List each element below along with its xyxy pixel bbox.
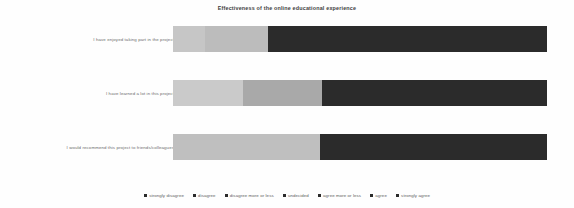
bar-segment-strongly-agree bbox=[320, 134, 547, 160]
legend-item[interactable]: undecided bbox=[283, 193, 309, 198]
bar-segment-agree-more-or-less bbox=[205, 26, 268, 52]
bar-row: I would recommend this project to friend… bbox=[0, 134, 574, 160]
legend-label: disagree more or less bbox=[230, 193, 274, 198]
legend-swatch-icon bbox=[144, 194, 147, 197]
category-label: I have learned a lot in this project bbox=[0, 91, 174, 96]
legend-item[interactable]: strongly disagree bbox=[144, 193, 184, 198]
legend-item[interactable]: agree more or less bbox=[318, 193, 361, 198]
legend-swatch-icon bbox=[193, 194, 196, 197]
legend-swatch-icon bbox=[283, 194, 286, 197]
bar-segment-undecided bbox=[173, 80, 243, 106]
legend-label: undecided bbox=[288, 193, 309, 198]
stacked-bar bbox=[173, 134, 547, 160]
bar-segment-strongly-agree bbox=[268, 26, 547, 52]
legend-label: agree bbox=[375, 193, 387, 198]
legend-label: strongly agree bbox=[401, 193, 430, 198]
stacked-bar bbox=[173, 26, 547, 52]
legend-swatch-icon bbox=[318, 194, 321, 197]
bar-segment-agree-more-or-less bbox=[243, 80, 322, 106]
chart-title: Effectiveness of the online educational … bbox=[0, 5, 574, 11]
chart-container: Effectiveness of the online educational … bbox=[0, 0, 574, 208]
bar-segment-strongly-agree bbox=[322, 80, 547, 106]
legend-swatch-icon bbox=[396, 194, 399, 197]
legend-label: disagree bbox=[198, 193, 215, 198]
legend-label: agree more or less bbox=[323, 193, 361, 198]
legend-item[interactable]: disagree more or less bbox=[225, 193, 274, 198]
category-label: I would recommend this project to friend… bbox=[0, 145, 174, 150]
bar-segment-undecided bbox=[173, 26, 205, 52]
stacked-bar bbox=[173, 80, 547, 106]
category-label: I have enjoyed taking part in the projec… bbox=[0, 37, 174, 42]
bar-row: I have enjoyed taking part in the projec… bbox=[0, 26, 574, 52]
chart-legend: strongly disagreedisagreedisagree more o… bbox=[0, 193, 574, 198]
legend-label: strongly disagree bbox=[149, 193, 184, 198]
bar-segment-undecided bbox=[173, 134, 320, 160]
legend-swatch-icon bbox=[225, 194, 228, 197]
legend-item[interactable]: strongly agree bbox=[396, 193, 430, 198]
legend-item[interactable]: disagree bbox=[193, 193, 216, 198]
legend-item[interactable]: agree bbox=[370, 193, 387, 198]
legend-swatch-icon bbox=[370, 194, 373, 197]
plot-area: I have enjoyed taking part in the projec… bbox=[0, 20, 574, 172]
bar-row: I have learned a lot in this project bbox=[0, 80, 574, 106]
